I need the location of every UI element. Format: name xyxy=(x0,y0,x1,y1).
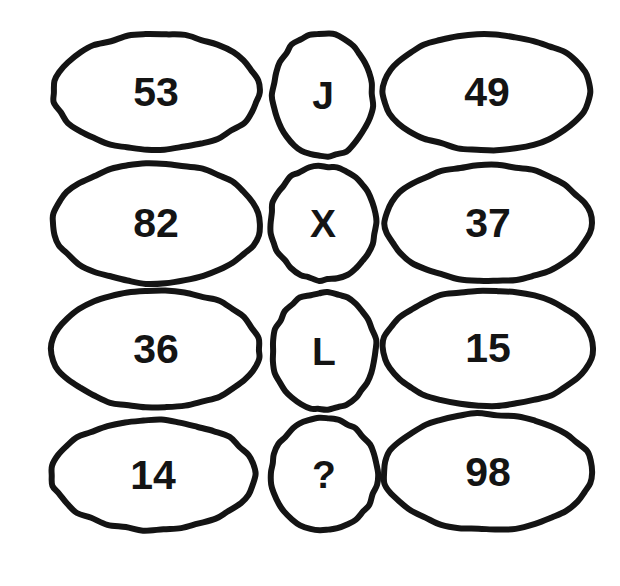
cell-label-r3c0: 14 xyxy=(51,420,255,530)
cell-label-r1c2: 37 xyxy=(385,165,591,281)
cell-label-r3c2: 98 xyxy=(383,414,593,530)
cell-label-r0c2: 49 xyxy=(383,34,591,150)
cell-label-r2c0: 36 xyxy=(52,290,260,408)
cell-label-r3c1: ? xyxy=(271,418,377,530)
cell-label-r0c0: 53 xyxy=(53,34,259,150)
cell-label-r0c1: J xyxy=(273,33,373,157)
puzzle-canvas: 53J4982X3736L1514?98 xyxy=(0,0,620,586)
cell-label-r1c1: X xyxy=(270,166,376,280)
cell-label-r2c1: L xyxy=(272,292,376,410)
cell-label-r2c2: 15 xyxy=(383,290,593,406)
cell-label-r1c0: 82 xyxy=(52,163,260,283)
